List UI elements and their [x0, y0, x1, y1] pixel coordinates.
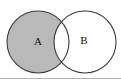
- venn-diagram-canvas: A B: [0, 0, 121, 80]
- set-a-label: A: [34, 35, 42, 47]
- venn-diagram-figure: A B: [0, 0, 121, 80]
- set-b-label: B: [80, 34, 87, 46]
